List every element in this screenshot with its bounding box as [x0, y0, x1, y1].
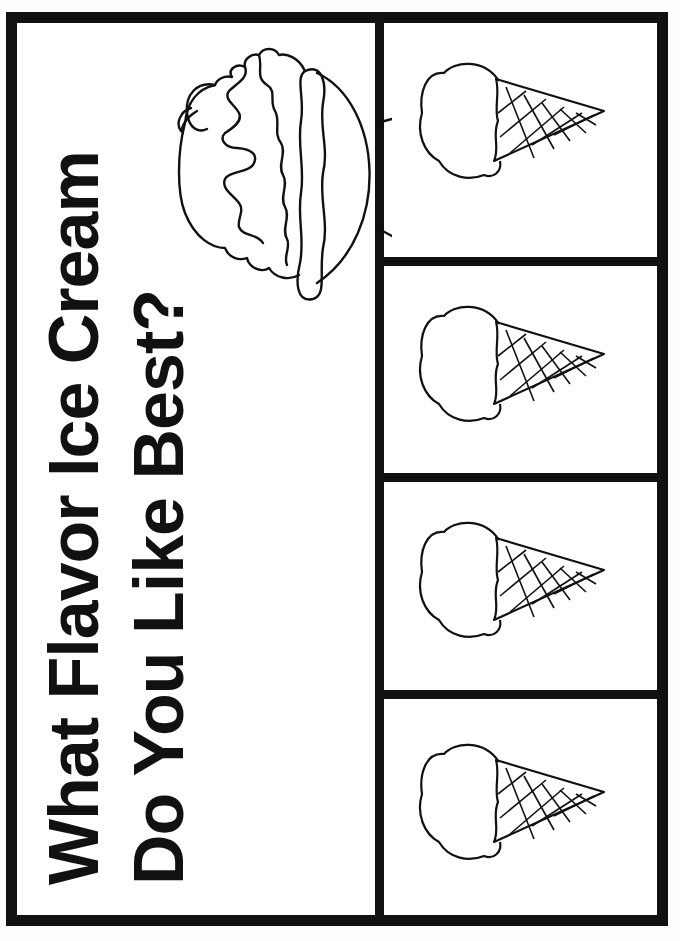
ice-cream-cone-icon [414, 296, 624, 436]
title-panel: What Flavor Ice Cream Do You Like Best? [17, 23, 384, 915]
title-line-2: Do You Like Best? [124, 290, 194, 885]
worksheet-frame: What Flavor Ice Cream Do You Like Best? [6, 12, 668, 926]
title-line-1: What Flavor Ice Cream [39, 151, 109, 885]
sundae-icon [177, 33, 392, 303]
cone-box-4[interactable] [384, 690, 659, 915]
cone-box-3[interactable] [384, 473, 659, 690]
ice-cream-cone-icon [414, 512, 624, 652]
ice-cream-cone-icon [414, 734, 624, 874]
ice-cream-cone-icon [414, 53, 624, 193]
cone-box-1[interactable] [384, 23, 659, 257]
cone-box-2[interactable] [384, 257, 659, 473]
cone-column [384, 23, 659, 915]
